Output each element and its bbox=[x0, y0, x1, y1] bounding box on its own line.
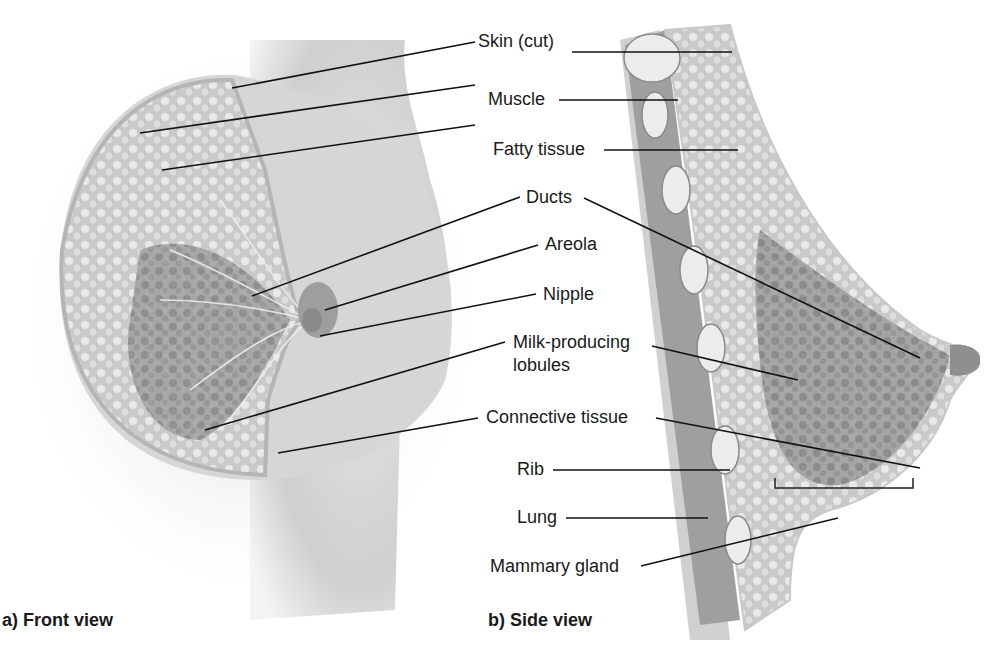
caption-front-view: a) Front view bbox=[2, 610, 113, 631]
caption-side-view: b) Side view bbox=[488, 610, 592, 631]
label-nipple: Nipple bbox=[543, 284, 594, 305]
label-connective-tissue: Connective tissue bbox=[486, 407, 628, 428]
side-view-illustration bbox=[620, 25, 980, 640]
breast-anatomy-diagram: Skin (cut) Muscle Fatty tissue Ducts Are… bbox=[0, 0, 990, 647]
label-muscle: Muscle bbox=[488, 89, 545, 110]
label-milk-producing: Milk-producing bbox=[513, 332, 630, 353]
label-ducts: Ducts bbox=[526, 187, 572, 208]
label-areola: Areola bbox=[545, 234, 597, 255]
label-fatty-tissue: Fatty tissue bbox=[493, 139, 585, 160]
label-lung: Lung bbox=[517, 507, 557, 528]
label-skin-cut: Skin (cut) bbox=[478, 31, 554, 52]
label-rib: Rib bbox=[517, 459, 544, 480]
front-view-illustration bbox=[0, 20, 500, 620]
label-mammary-gland: Mammary gland bbox=[490, 556, 619, 577]
label-lobules: lobules bbox=[513, 355, 570, 376]
